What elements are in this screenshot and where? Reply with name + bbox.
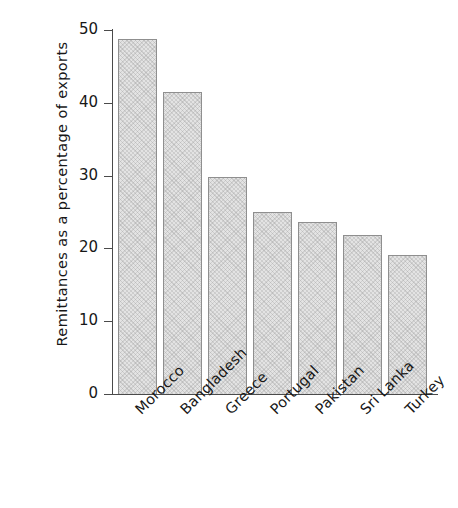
bar-chart: Remittances as a percentage of exports 0…	[0, 0, 458, 508]
bar	[253, 212, 292, 394]
bar	[163, 92, 202, 394]
bars-group	[0, 0, 458, 508]
bar	[118, 39, 157, 394]
